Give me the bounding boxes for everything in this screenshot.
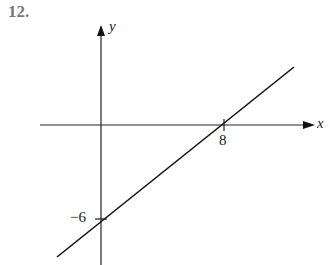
y-axis-arrow-icon — [97, 25, 105, 36]
graph — [0, 0, 330, 265]
graph-line — [57, 67, 294, 257]
y-axis-label: y — [109, 18, 116, 35]
x-intercept-label: 8 — [219, 132, 227, 149]
y-intercept-label: −6 — [70, 209, 86, 226]
x-axis-label: x — [317, 115, 324, 132]
x-axis-arrow-icon — [303, 121, 315, 129]
